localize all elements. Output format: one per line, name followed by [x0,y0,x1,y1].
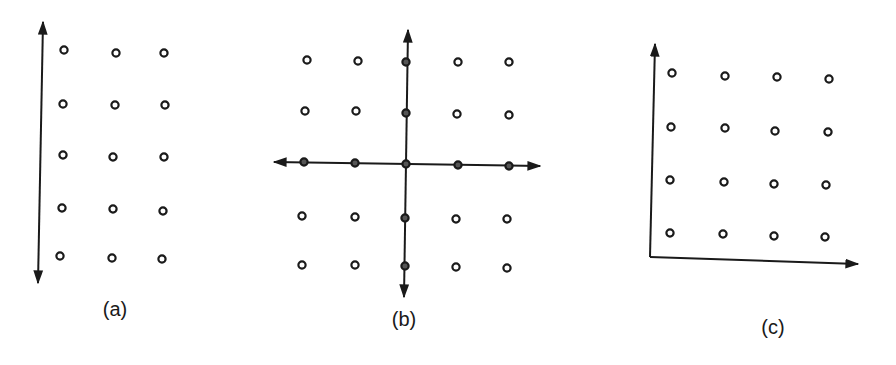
arrow-horizontal-axis [650,257,858,264]
lattice-point [161,101,168,108]
lattice-point [771,127,778,134]
lattice-point [303,56,310,63]
lattice-point [56,252,63,259]
panel-b-label: (b) [392,308,416,331]
lattice-point [402,160,409,167]
lattice-point [719,230,726,237]
lattice-point [159,207,166,214]
lattice-point [108,254,115,261]
lattice-point [111,101,118,108]
lattice-point [351,159,358,166]
lattice-point [351,213,358,220]
lattice-point [402,109,409,116]
lattice-point [160,153,167,160]
lattice-point [351,261,358,268]
lattice-figure [0,0,896,365]
lattice-point [59,151,66,158]
lattice-point [109,205,116,212]
lattice-point [773,73,780,80]
panel-a [38,22,169,283]
lattice-point [402,58,409,65]
arrow-vertical-axis [650,44,655,257]
lattice-point [352,107,359,114]
lattice-point [454,58,461,65]
lattice-point [666,229,673,236]
lattice-point [401,214,408,221]
lattice-point [109,153,116,160]
lattice-point [59,100,66,107]
lattice-point [453,110,460,117]
lattice-point [824,128,831,135]
lattice-point [770,180,777,187]
lattice-point [452,215,459,222]
lattice-point [300,158,307,165]
panel-c-label: (c) [761,316,784,339]
panel-a-label: (a) [103,298,127,321]
lattice-point [505,111,512,118]
lattice-point [667,123,674,130]
double-arrow-vertical-axis [38,22,43,283]
lattice-point [503,215,510,222]
lattice-point [158,255,165,262]
lattice-point [452,263,459,270]
lattice-point [503,264,510,271]
lattice-point [354,57,361,64]
lattice-point [505,58,512,65]
lattice-point [401,262,408,269]
lattice-point [454,161,461,168]
lattice-point [770,232,777,239]
lattice-point [721,124,728,131]
lattice-point [298,261,305,268]
lattice-point [821,233,828,240]
lattice-point [720,178,727,185]
lattice-point [112,49,119,56]
lattice-point [668,69,675,76]
lattice-point [298,212,305,219]
lattice-point [721,72,728,79]
panel-c [650,44,858,264]
lattice-point [58,204,65,211]
lattice-point [822,181,829,188]
lattice-point [60,46,67,53]
lattice-point [505,162,512,169]
lattice-point [666,176,673,183]
panel-b [274,30,540,297]
lattice-point [825,75,832,82]
lattice-point [160,49,167,56]
lattice-point [301,107,308,114]
